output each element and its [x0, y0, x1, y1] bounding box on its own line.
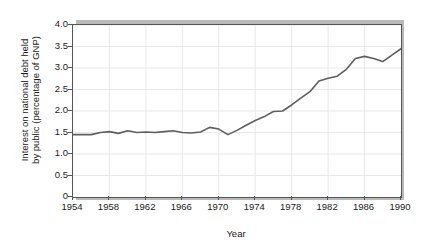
x-axis-tick-mark: [181, 196, 182, 200]
y-axis-tick-label: 0.5: [44, 170, 68, 180]
x-axis-tick-label: 1954: [52, 202, 92, 212]
x-axis-label: Year: [72, 228, 400, 239]
x-axis-tick-label: 1962: [125, 202, 165, 212]
y-axis-label-line-2: by public (percentage of GNP): [30, 36, 42, 164]
x-axis-tick-mark: [72, 196, 73, 200]
plot-area: [72, 24, 402, 198]
gridlines: [73, 25, 401, 197]
x-axis-tick-label: 1982: [307, 202, 347, 212]
x-axis-tick-label: 1986: [344, 202, 384, 212]
x-axis-tick-mark: [145, 196, 146, 200]
y-axis-tick-label: 1.0: [44, 148, 68, 158]
y-axis-tick-label: 2.5: [44, 84, 68, 94]
chart-svg: [73, 25, 401, 197]
x-axis-tick-mark: [364, 196, 365, 200]
y-axis-tick-mark: [68, 24, 72, 25]
x-axis-tick-labels: 1954195819621966197019741978198219861990: [0, 200, 433, 216]
x-axis-tick-mark: [400, 196, 401, 200]
y-axis-tick-labels: 4.03.53.02.52.01.51.00.50: [44, 24, 68, 196]
x-axis-tick-label: 1970: [198, 202, 238, 212]
x-axis-tick-mark: [291, 196, 292, 200]
y-axis-tick-mark: [68, 46, 72, 47]
x-axis-tick-mark: [327, 196, 328, 200]
y-axis-tick-label: 1.5: [44, 127, 68, 137]
y-axis-tick-mark: [68, 89, 72, 90]
y-axis-tick-label: 3.5: [44, 41, 68, 51]
x-axis-tick-label: 1978: [271, 202, 311, 212]
x-axis-tick-label: 1966: [161, 202, 201, 212]
y-axis-tick-mark: [68, 196, 72, 197]
x-axis-tick-mark: [108, 196, 109, 200]
y-axis-label-line-1: Interest on national debt held: [19, 39, 31, 162]
y-axis-tick-mark: [68, 67, 72, 68]
x-axis-tick-label: 1974: [234, 202, 274, 212]
x-axis-tick-mark: [218, 196, 219, 200]
x-axis-tick-label: 1958: [88, 202, 128, 212]
y-axis-tick-mark: [68, 132, 72, 133]
x-axis-tick-mark: [254, 196, 255, 200]
y-axis-tick-label: 3.0: [44, 62, 68, 72]
y-axis-tick-mark: [68, 175, 72, 176]
chart-figure: Interest on national debt held by public…: [0, 0, 433, 251]
y-axis-tick-mark: [68, 110, 72, 111]
y-axis-tick-label: 4.0: [44, 19, 68, 29]
data-series-line: [73, 49, 401, 135]
y-axis-tick-mark: [68, 153, 72, 154]
x-axis-tick-label: 1990: [380, 202, 420, 212]
y-axis-tick-label: 2.0: [44, 105, 68, 115]
